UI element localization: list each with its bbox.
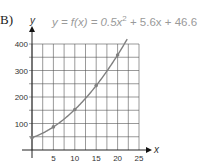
y-axis-arrow-icon xyxy=(29,26,35,32)
data-point xyxy=(73,108,77,112)
y-tick-label: 400 xyxy=(15,40,29,49)
data-point xyxy=(30,136,34,140)
data-point xyxy=(116,53,120,57)
x-tick-label: 15 xyxy=(92,154,101,163)
function-curve xyxy=(32,39,127,138)
x-axis-label: x xyxy=(153,144,160,155)
y-tick-label: 300 xyxy=(15,67,29,76)
x-tick-label: 25 xyxy=(135,154,144,163)
x-tick-label: 10 xyxy=(70,154,79,163)
y-tick-label: 200 xyxy=(15,93,29,102)
x-tick-label: 5 xyxy=(51,154,56,163)
y-axis-label: y xyxy=(29,15,36,26)
x-tick-label: 20 xyxy=(113,154,122,163)
y-tick-label: 100 xyxy=(15,120,29,129)
data-point xyxy=(52,125,56,129)
data-point xyxy=(94,84,98,88)
chart: yx510152025100200300400 xyxy=(0,0,203,167)
x-axis-arrow-icon xyxy=(146,147,152,153)
